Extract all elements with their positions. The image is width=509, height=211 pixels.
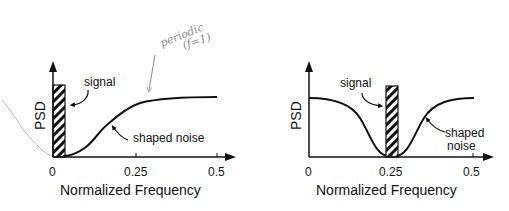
right-noise-label-line2: noise: [447, 139, 476, 153]
right-signal-label: signal: [340, 76, 371, 90]
signal-arrow-icon: [362, 93, 381, 106]
left-xlabel: Normalized Frequency: [60, 182, 201, 198]
left-noise-label: shaped noise: [133, 131, 205, 145]
x-axis-arrow-icon: [225, 153, 236, 161]
left-tick-0-5: 0.5: [208, 165, 225, 179]
left-ylabel: PSD: [32, 101, 48, 130]
noise-arrow-icon: [113, 127, 128, 140]
left-chart: signal shaped noise PSD 0 0.25 0.5 Norma…: [2, 21, 236, 198]
right-noise-label-line1: shaped: [445, 126, 484, 140]
right-xlabel: Normalized Frequency: [316, 182, 457, 198]
signal-bar: [53, 85, 65, 157]
signal-arrow-icon: [72, 90, 88, 105]
right-tick-0-5: 0.5: [463, 165, 480, 179]
y-axis-arrow-icon: [305, 61, 313, 72]
right-ylabel: PSD: [288, 101, 304, 130]
y-axis-arrow-icon: [49, 61, 57, 72]
right-chart: signal shaped noise PSD 0 0.25 0.5 Norma…: [288, 61, 494, 198]
noise-arrow-icon: [427, 119, 445, 132]
shaped-noise-curve: [63, 97, 217, 156]
left-tick-0: 0: [49, 165, 56, 179]
right-tick-0: 0: [305, 165, 312, 179]
x-axis-arrow-icon: [483, 153, 494, 161]
right-tick-0-25: 0.25: [379, 165, 403, 179]
signal-bar: [386, 86, 398, 157]
left-tick-0-25: 0.25: [124, 165, 148, 179]
figure: signal shaped noise PSD 0 0.25 0.5 Norma…: [0, 0, 509, 211]
left-signal-label: signal: [84, 75, 115, 89]
pencil-arrow-icon: [149, 55, 155, 90]
